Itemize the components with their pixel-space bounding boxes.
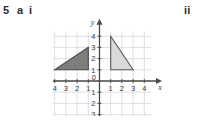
x-tick-label: 2 xyxy=(120,84,124,93)
question-roman-ii: ii xyxy=(184,5,191,16)
y-tick-label: 3 xyxy=(91,110,95,116)
question-number: 5 xyxy=(3,5,9,16)
coordinate-grid-chart: 4321012344321123xy xyxy=(53,18,173,116)
question-roman-i: i xyxy=(29,5,32,16)
y-tick-label: 4 xyxy=(91,32,95,41)
grid-lines xyxy=(53,32,151,116)
y-tick-label: 1 xyxy=(91,66,95,75)
x-tick-label: 2 xyxy=(75,84,79,93)
x-axis-label: x xyxy=(157,83,162,92)
x-tick-label: 1 xyxy=(109,84,113,93)
y-tick-label: 2 xyxy=(91,99,95,108)
x-tick-label: 3 xyxy=(64,84,68,93)
x-tick-label: 4 xyxy=(53,84,57,93)
y-tick-label: 3 xyxy=(91,43,95,52)
worksheet-figure: 5 a i ii 4321012344321123xy xyxy=(0,0,203,120)
y-tick-label: 1 xyxy=(91,88,95,97)
question-part-letter: a xyxy=(17,5,23,16)
y-axis-arrow-icon xyxy=(97,19,103,25)
x-tick-label: 1 xyxy=(86,84,90,93)
y-tick-label: 2 xyxy=(91,54,95,63)
x-tick-label: 3 xyxy=(131,84,135,93)
y-axis-label: y xyxy=(90,18,95,27)
x-tick-label: 4 xyxy=(142,84,146,93)
chart-canvas: 4321012344321123xy xyxy=(53,18,173,116)
